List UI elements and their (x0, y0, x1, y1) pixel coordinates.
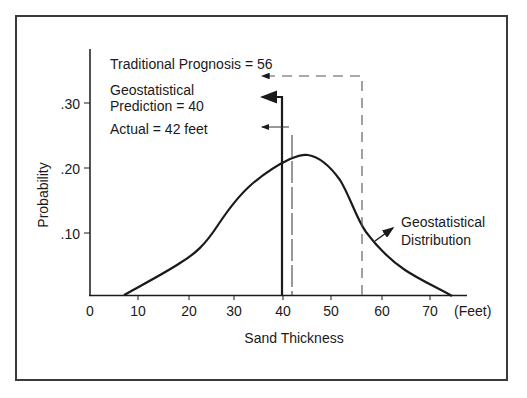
geo-prediction-label-1: Geostatistical (110, 82, 194, 98)
x-tick-label-60: 60 (374, 303, 390, 319)
x-tick-label-50: 50 (323, 303, 339, 319)
actual-label: Actual = 42 feet (110, 121, 208, 137)
x-tick-label-40: 40 (275, 303, 291, 319)
y-ticks (84, 103, 90, 233)
x-tick-label-0: 0 (86, 303, 94, 319)
geo-prediction-label-2: Prediction = 40 (110, 98, 204, 114)
x-tick-label-20: 20 (181, 303, 197, 319)
distribution-label-1: Geostatistical (401, 214, 485, 230)
x-tick-label-10: 10 (130, 303, 146, 319)
y-tick-label-30: .30 (61, 96, 81, 112)
x-axis-label: Sand Thickness (244, 330, 343, 346)
traditional-label: Traditional Prognosis = 56 (110, 56, 273, 72)
x-unit-label: (Feet) (454, 303, 491, 319)
x-tick-label-30: 30 (226, 303, 242, 319)
chart: .30 .20 .10 0 10 20 30 40 50 60 70 (Feet… (0, 0, 527, 398)
traditional-line (262, 76, 362, 295)
distribution-arrow (375, 228, 393, 241)
x-tick-label-70: 70 (422, 303, 438, 319)
y-axis-label: Probability (35, 162, 51, 227)
distribution-label-2: Distribution (401, 232, 471, 248)
y-tick-label-20: .20 (61, 161, 81, 177)
y-tick-label-10: .10 (61, 226, 81, 242)
